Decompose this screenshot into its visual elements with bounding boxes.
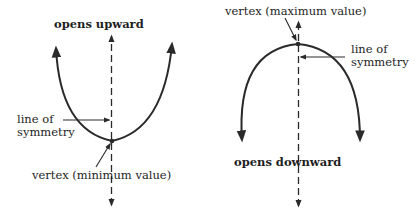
vertex-minimum-point — [110, 139, 115, 144]
downward-parabola-curve — [241, 44, 360, 140]
vertex-minimum-label: vertex (minimum value) — [32, 169, 171, 182]
vertex-maximum-point — [296, 42, 301, 47]
line-of-symmetry-label-left-2: symmetry — [17, 126, 75, 139]
opens-upward-title: opens upward — [54, 18, 144, 31]
vertex-pointer-left — [96, 144, 110, 167]
line-of-symmetry-label-right-2: symmetry — [351, 56, 409, 69]
parabola-diagram — [0, 0, 416, 218]
opens-downward-title: opens downward — [234, 156, 341, 169]
vertex-pointer-right — [285, 18, 296, 40]
downward-parabola-figure — [241, 18, 360, 206]
vertex-maximum-label: vertex (maximum value) — [225, 5, 366, 18]
